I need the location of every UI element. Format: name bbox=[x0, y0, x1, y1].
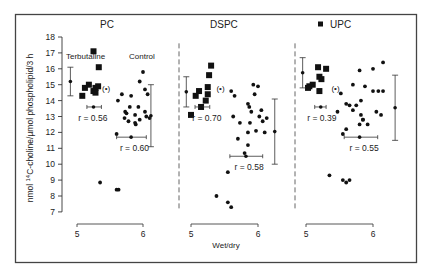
y-tick-label: 14 bbox=[46, 96, 56, 106]
data-point-dot bbox=[348, 178, 352, 182]
data-point-square bbox=[96, 64, 102, 70]
y-tick-label: 12 bbox=[46, 127, 56, 137]
data-point-dot bbox=[341, 178, 345, 182]
data-point-dot bbox=[136, 105, 140, 109]
data-point-dot bbox=[257, 115, 261, 119]
data-point-dot bbox=[251, 83, 255, 87]
data-point-dot bbox=[246, 143, 250, 147]
mean-point bbox=[319, 105, 323, 109]
data-point-dot bbox=[265, 116, 269, 120]
x-axis-label: Wet/dry bbox=[212, 241, 239, 250]
data-point-dot bbox=[261, 119, 265, 123]
data-point-square bbox=[95, 83, 101, 89]
panel-title: UPC bbox=[330, 19, 351, 30]
data-point-dot bbox=[146, 92, 150, 96]
data-point-dot bbox=[344, 181, 348, 185]
data-point-dot bbox=[351, 108, 355, 112]
y-tick-label: 15 bbox=[46, 80, 56, 90]
data-point-dot bbox=[359, 99, 363, 103]
data-point-dot bbox=[120, 92, 124, 96]
mean-point bbox=[273, 130, 277, 134]
data-point-dot bbox=[243, 151, 247, 155]
outlier-label: (•) bbox=[331, 84, 339, 93]
data-point-square bbox=[205, 91, 211, 97]
label-control: Control bbox=[129, 52, 155, 61]
data-point-dot bbox=[229, 205, 233, 209]
x-tick-label: 5 bbox=[189, 229, 194, 239]
data-point-dot bbox=[143, 110, 147, 114]
data-point-dot bbox=[354, 103, 358, 107]
data-point-dot bbox=[233, 94, 237, 98]
data-point-dot bbox=[246, 131, 250, 135]
y-tick-label: 11 bbox=[46, 143, 55, 153]
data-point-dot bbox=[128, 105, 132, 109]
correlation-label: r = 0.60 bbox=[120, 143, 149, 153]
data-point-dot bbox=[125, 111, 129, 115]
data-point-dot bbox=[358, 68, 362, 72]
mean-point bbox=[69, 80, 73, 84]
data-point-square bbox=[305, 85, 311, 91]
y-tick-label: 8 bbox=[50, 191, 55, 201]
data-point-square bbox=[203, 98, 209, 104]
data-point-dot bbox=[133, 113, 137, 117]
data-point-dot bbox=[248, 121, 252, 125]
data-point-dot bbox=[376, 89, 380, 93]
mean-point bbox=[129, 135, 133, 139]
data-point-square bbox=[323, 66, 329, 72]
mean-point bbox=[358, 135, 362, 139]
data-point-dot bbox=[371, 67, 375, 71]
data-point-dot bbox=[344, 102, 348, 106]
y-tick-label: 17 bbox=[46, 48, 56, 58]
x-tick-label: 5 bbox=[75, 229, 80, 239]
data-point-dot bbox=[344, 127, 348, 131]
data-point-dot bbox=[256, 84, 260, 88]
data-point-dot bbox=[123, 116, 127, 120]
outlier-label: (•) bbox=[216, 84, 224, 93]
data-point-dot bbox=[226, 170, 230, 174]
correlation-label: r = 0.55 bbox=[350, 143, 379, 153]
data-point-dot bbox=[351, 83, 355, 87]
data-point-dot bbox=[134, 123, 138, 127]
data-point-dot bbox=[127, 119, 131, 123]
data-point-square bbox=[91, 48, 97, 54]
data-point-dot bbox=[138, 118, 142, 122]
data-point-square bbox=[205, 84, 211, 90]
data-point-square bbox=[206, 72, 212, 78]
y-tick-label: 9 bbox=[50, 175, 55, 185]
data-point-dot bbox=[143, 88, 147, 92]
correlation-label: r = 0.56 bbox=[78, 113, 107, 123]
x-tick-label: 6 bbox=[371, 229, 376, 239]
data-point-dot bbox=[231, 115, 235, 119]
data-point-dot bbox=[348, 103, 352, 107]
data-point-dot bbox=[215, 194, 219, 198]
mean-point bbox=[185, 90, 189, 94]
data-point-dot bbox=[381, 89, 385, 93]
data-point-dot bbox=[249, 110, 253, 114]
data-point-dot bbox=[336, 110, 340, 114]
data-point-dot bbox=[141, 70, 145, 74]
data-point-dot bbox=[129, 94, 133, 98]
data-point-dot bbox=[144, 115, 148, 119]
data-point-dot bbox=[117, 188, 121, 192]
data-point-dot bbox=[253, 92, 257, 96]
data-point-square bbox=[86, 82, 92, 88]
y-tick-label: 7 bbox=[50, 207, 55, 217]
data-point-dot bbox=[247, 105, 251, 109]
y-tick-label: 10 bbox=[46, 159, 56, 169]
data-point-dot bbox=[238, 121, 242, 125]
mean-point bbox=[199, 105, 203, 109]
correlation-label: r = 0.70 bbox=[192, 113, 221, 123]
data-point-dot bbox=[361, 118, 365, 122]
data-point-dot bbox=[259, 108, 263, 112]
data-point-square bbox=[196, 88, 202, 94]
data-point-dot bbox=[358, 123, 362, 127]
x-tick-label: 5 bbox=[304, 229, 309, 239]
data-point-dot bbox=[98, 181, 102, 185]
data-point-square bbox=[208, 63, 214, 69]
data-point-dot bbox=[263, 131, 267, 135]
data-point-dot bbox=[226, 200, 230, 204]
scatter-figure: 789101112131415161718 nmol 14C-choline/µ… bbox=[0, 0, 432, 277]
mean-point bbox=[92, 105, 96, 109]
correlation-label: r = 0.58 bbox=[235, 162, 264, 172]
data-point-dot bbox=[236, 137, 240, 141]
